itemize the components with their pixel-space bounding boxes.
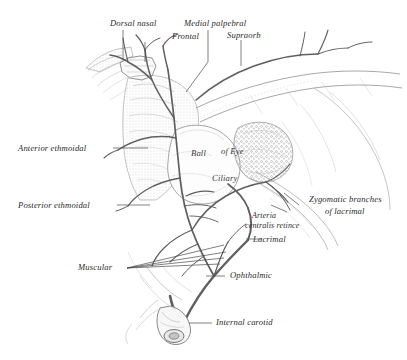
label-posterior-ethmoidal: Posterior ethmoidal [18, 200, 90, 210]
label-centralis-retinae: centralis retince [245, 221, 299, 230]
leader-medial-palpebral-lower [186, 62, 208, 92]
label-zygomatic-branches: Zygomatic branches [309, 194, 382, 204]
label-of-lacrimal: of lacrimal [325, 206, 365, 216]
label-ball-of-eye-part2: of Eye [221, 146, 244, 156]
label-ciliary: Ciliary [212, 173, 237, 183]
label-anterior-ethmoidal: Anterior ethmoidal [18, 143, 86, 153]
ciliary-artery-b [184, 205, 216, 208]
label-dorsal-nasal: Dorsal nasal [110, 18, 156, 28]
label-medial-palpebral: Medial palpebral [184, 18, 246, 28]
anatomical-plate: Dorsal nasal Frontal Medial palpebral Su… [0, 0, 407, 360]
label-ball-of-eye-part1: Ball [191, 148, 206, 158]
label-frontal: Frontal [172, 31, 199, 41]
internal-carotid-stump [126, 300, 191, 345]
muscular-branch-inferior [182, 256, 204, 276]
label-lacrimal: Lacrimal [253, 234, 286, 244]
label-supraorbital: Supraorb [227, 30, 261, 40]
supraorbital-artery [196, 54, 318, 100]
muscular-branch-middle [170, 244, 198, 262]
medial-palpebral-artery [163, 46, 168, 70]
label-muscular: Muscular [78, 262, 112, 272]
ciliary-artery-c [190, 216, 218, 222]
label-ophthalmic: Ophthalmic [230, 270, 272, 280]
inferior-orbital-tissue [128, 252, 192, 310]
temporal-fossa-surface [282, 88, 390, 210]
label-internal-carotid: Internal carotid [216, 317, 273, 327]
orbit-artery-engraving [0, 0, 407, 360]
label-arteria: Arteria [252, 211, 276, 220]
